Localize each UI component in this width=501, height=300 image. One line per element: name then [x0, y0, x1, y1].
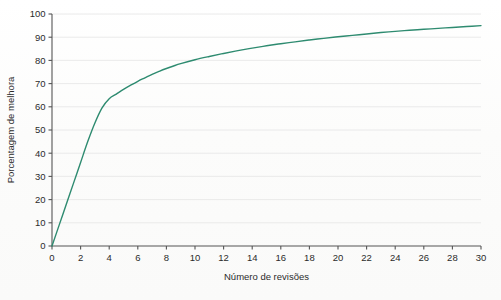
- y-tick-label: 20: [35, 194, 46, 205]
- y-tick-label: 60: [35, 101, 46, 112]
- y-tick-label: 70: [35, 78, 46, 89]
- x-tick-label: 6: [135, 252, 140, 263]
- x-tick-label: 28: [447, 252, 458, 263]
- x-tick-label: 18: [304, 252, 315, 263]
- x-tick-label: 8: [164, 252, 169, 263]
- x-tick-label: 12: [218, 252, 229, 263]
- x-tick-label: 24: [390, 252, 401, 263]
- x-tick-label: 22: [361, 252, 372, 263]
- y-tick-label: 30: [35, 171, 46, 182]
- y-tick-label: 90: [35, 32, 46, 43]
- y-tick-label: 40: [35, 148, 46, 159]
- y-tick-label: 80: [35, 55, 46, 66]
- chart-figure: 0102030405060708090100024681012141618202…: [0, 0, 501, 300]
- y-tick-label: 100: [30, 8, 46, 19]
- line-chart: 0102030405060708090100024681012141618202…: [0, 0, 501, 300]
- y-tick-label: 50: [35, 124, 46, 135]
- x-tick-label: 10: [190, 252, 201, 263]
- x-tick-label: 4: [107, 252, 112, 263]
- y-tick-label: 10: [35, 217, 46, 228]
- x-tick-label: 14: [247, 252, 258, 263]
- y-tick-label: 0: [40, 240, 45, 251]
- data-series-line: [52, 26, 481, 246]
- x-tick-label: 20: [333, 252, 344, 263]
- x-tick-label: 0: [49, 252, 54, 263]
- x-axis-title: Número de revisões: [224, 271, 309, 282]
- x-tick-label: 16: [276, 252, 287, 263]
- y-axis-title: Porcentagem de melhora: [5, 76, 16, 183]
- x-tick-label: 30: [476, 252, 487, 263]
- x-tick-label: 26: [419, 252, 430, 263]
- x-tick-label: 2: [78, 252, 83, 263]
